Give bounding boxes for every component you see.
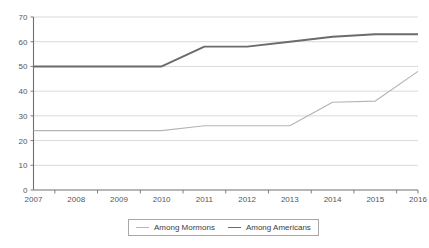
y-tick-label: 40 — [19, 87, 28, 96]
legend-item-among-americans[interactable]: Among Americans — [228, 224, 311, 232]
legend-swatch-among-americans — [228, 227, 241, 228]
y-tick-label: 30 — [19, 112, 28, 121]
y-tick-label: 60 — [19, 38, 28, 47]
series-lines — [34, 34, 419, 130]
legend-label-among-americans: Among Americans — [246, 224, 311, 232]
x-tick-label: 2011 — [196, 195, 214, 204]
line-chart: 010203040506070 200720082009201020112012… — [0, 0, 429, 248]
series-line-among-americans — [34, 34, 419, 66]
y-tick-labels: 010203040506070 — [19, 13, 28, 195]
y-tick-label: 20 — [19, 137, 28, 146]
x-tick-label: 2008 — [67, 195, 85, 204]
gridlines — [34, 17, 419, 165]
x-tick-label: 2007 — [25, 195, 43, 204]
x-tick-label: 2016 — [409, 195, 427, 204]
x-tick-label: 2010 — [153, 195, 171, 204]
legend-swatch-among-mormons — [136, 227, 149, 228]
x-tick-label: 2014 — [324, 195, 342, 204]
series-line-among-mormons — [34, 71, 419, 130]
legend-label-among-mormons: Among Mormons — [154, 224, 215, 232]
x-tick-label: 2009 — [110, 195, 128, 204]
x-tick-labels: 2007200820092010201120122013201420152016 — [25, 195, 428, 204]
x-tick-label: 2013 — [281, 195, 299, 204]
x-tick-label: 2012 — [238, 195, 256, 204]
y-tick-label: 50 — [19, 62, 28, 71]
legend-item-among-mormons[interactable]: Among Mormons — [136, 224, 215, 232]
chart-legend: Among Mormons Among Americans — [128, 219, 319, 236]
y-tick-label: 0 — [23, 186, 28, 195]
chart-canvas: 010203040506070 200720082009201020112012… — [0, 0, 429, 248]
y-tick-label: 70 — [19, 13, 28, 22]
y-tick-label: 10 — [19, 161, 28, 170]
x-tick-label: 2015 — [366, 195, 384, 204]
